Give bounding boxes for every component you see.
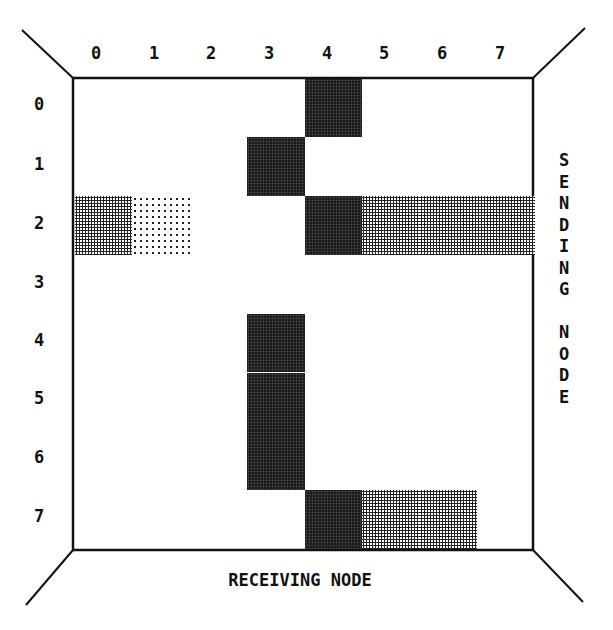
matrix-cell-r7-c5	[362, 490, 420, 549]
row-label: 7	[24, 506, 54, 526]
matrix-cell-r7-c4	[305, 490, 363, 549]
matrix-cell-r2-c1	[132, 196, 190, 255]
row-label: 0	[24, 94, 54, 114]
column-label: 0	[81, 43, 111, 63]
matrix-cell-r1-c3	[247, 137, 305, 196]
x-axis-label: RECEIVING NODE	[150, 570, 450, 590]
row-label: 2	[24, 213, 54, 233]
corner-line-bottom-right	[533, 550, 583, 602]
matrix-cell-r2-c5	[362, 196, 420, 255]
column-label: 5	[369, 43, 399, 63]
matrix-cell-r2-c4	[305, 196, 363, 255]
row-label: 5	[24, 388, 54, 408]
row-label: 4	[24, 330, 54, 350]
row-label: 1	[24, 154, 54, 174]
column-label: 2	[196, 43, 226, 63]
column-label: 1	[139, 43, 169, 63]
matrix-cell-r0-c4	[305, 79, 363, 138]
corner-line-top-left	[22, 30, 73, 78]
corner-line-top-right	[533, 28, 585, 78]
column-label: 6	[427, 43, 457, 63]
corner-line-bottom-left	[26, 550, 73, 605]
matrix-cell-r6-c3	[247, 431, 305, 490]
column-label: 3	[254, 43, 284, 63]
matrix-cell-r4-c3	[247, 314, 305, 373]
column-label: 7	[485, 43, 515, 63]
y-axis-label: S E N D I N G N O D E	[552, 150, 576, 408]
row-label: 3	[24, 272, 54, 292]
row-label: 6	[24, 447, 54, 467]
matrix-cell-r5-c3	[247, 373, 305, 432]
column-label: 4	[312, 43, 342, 63]
matrix-cell-r2-c7	[477, 196, 535, 255]
matrix-cell-r2-c0	[75, 196, 133, 255]
matrix-cell-r7-c6	[420, 490, 478, 549]
matrix-cell-r2-c6	[420, 196, 478, 255]
